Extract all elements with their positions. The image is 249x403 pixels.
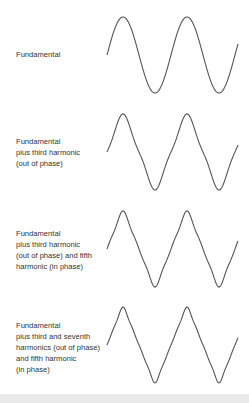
wave-fundamental-plus-third xyxy=(107,114,238,190)
label-line: Fundamental xyxy=(16,228,92,239)
label-line: (in phase) xyxy=(16,364,100,375)
label-line: Fundamental xyxy=(16,136,80,147)
label-line: Fundamental xyxy=(16,49,60,60)
wave-plus-third-fifth-seventh xyxy=(107,307,238,383)
label-line: Fundamental xyxy=(16,320,100,331)
label-fundamental-plus-third: Fundamental plus third harmonic (out of … xyxy=(16,136,80,169)
label-plus-third-fifth: Fundamental plus third harmonic (out of … xyxy=(16,228,92,272)
label-line: plus third harmonic xyxy=(16,147,80,158)
wave-plus-third-fifth xyxy=(107,211,238,287)
label-fundamental: Fundamental xyxy=(16,49,60,60)
label-plus-third-fifth-seventh: Fundamental plus third and seventh harmo… xyxy=(16,320,100,375)
label-line: harmonic (in phase) xyxy=(16,261,92,272)
label-line: and fifth harmonic xyxy=(16,353,100,364)
label-line: plus third harmonic xyxy=(16,239,92,250)
footer-strip xyxy=(0,394,249,403)
label-line: harmonics (out of phase) xyxy=(16,342,100,353)
label-line: plus third and seventh xyxy=(16,331,100,342)
label-line: (out of phase) and fifth xyxy=(16,250,92,261)
label-line: (out of phase) xyxy=(16,158,80,169)
wave-fundamental xyxy=(107,17,238,93)
